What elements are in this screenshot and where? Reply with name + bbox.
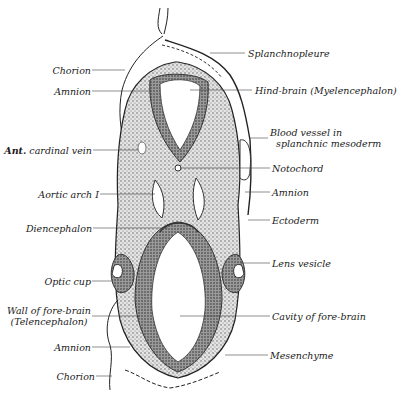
label-aortic-arch: Aortic arch I (38, 189, 99, 200)
label-cavity-fore-brain: Cavity of fore-brain (272, 311, 366, 322)
label-ant-prefix: Ant. (4, 145, 26, 156)
label-optic-cup: Optic cup (44, 276, 91, 287)
label-chorion-bottom: Chorion (56, 371, 95, 382)
embryo-section-diagram: Chorion Amnion Ant. cardinal vein Aortic… (0, 0, 397, 393)
label-ant-cardinal-vein-text: cardinal vein (29, 145, 92, 156)
label-blood-vessel-line1: Blood vessel in (270, 127, 381, 138)
label-mesenchyme: Mesenchyme (270, 350, 333, 361)
label-chorion-top: Chorion (52, 65, 91, 76)
label-hind-brain: Hind-brain (Myelencephalon) (255, 85, 397, 96)
label-amnion-right: Amnion (272, 187, 309, 198)
label-notochord: Notochord (272, 163, 323, 174)
label-diencephalon: Diencephalon (26, 223, 92, 234)
label-wall-fore-brain-line2: (Telencephalon) (7, 316, 91, 327)
label-blood-vessel: Blood vessel in splanchnic mesoderm (270, 127, 381, 149)
label-ectoderm: Ectoderm (272, 215, 319, 226)
label-splanchnopleure: Splanchnopleure (248, 48, 330, 59)
label-wall-fore-brain: Wall of fore-brain (Telencephalon) (7, 305, 91, 327)
label-ant-cardinal-vein: Ant. cardinal vein (4, 145, 92, 156)
label-amnion-top: Amnion (54, 86, 91, 97)
label-lens-vesicle: Lens vesicle (272, 258, 331, 269)
label-blood-vessel-line2: splanchnic mesoderm (270, 138, 381, 149)
label-amnion-bottom: Amnion (54, 342, 91, 353)
label-wall-fore-brain-line1: Wall of fore-brain (7, 305, 91, 316)
